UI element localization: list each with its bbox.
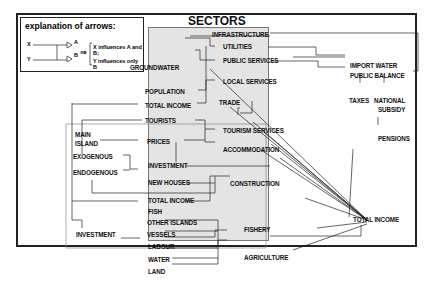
input-vessels: VESSELS (147, 231, 175, 238)
sector-public-services: PUBLIC SERVICES (223, 57, 278, 64)
input-water: WATER (148, 256, 170, 263)
input-tourists: TOURISTS (145, 117, 176, 124)
input-investment: INVESTMENT (148, 162, 188, 169)
output-pensions: PENSIONS (378, 135, 410, 142)
sector-utilities: UTILITIES (223, 43, 252, 50)
sector-local-services: LOCAL SERVICES (223, 78, 277, 85)
sector-infrastructure: INFRASTRUCTURE (212, 31, 269, 38)
sector-fishery: FISHERY (244, 226, 270, 233)
input-new-houses: NEW HOUSES (148, 179, 190, 186)
input-main-island: MAIN (75, 131, 91, 138)
arrow-legend: explanation of arrows: X Y A B X influen… (20, 17, 144, 72)
input-total-income-1: TOTAL INCOME (145, 102, 191, 109)
output-public-balance: PUBLIC BALANCE (350, 72, 405, 79)
output-total-income: TOTAL INCOME (353, 216, 399, 223)
input-labour: LABOUR (148, 243, 174, 250)
sectors-title: SECTORS (188, 14, 246, 28)
sector-agriculture: AGRICULTURE (244, 254, 288, 261)
output-taxes: TAXES (349, 97, 369, 104)
output-subsidy: SUBSIDY (378, 106, 405, 113)
output-import-water: IMPORT WATER (350, 62, 397, 69)
input-exogenous: EXOGENOUS (73, 153, 113, 160)
input-investment-2: INVESTMENT (76, 231, 116, 238)
input-population: POPULATION (145, 88, 185, 95)
output-national: NATIONAL (374, 97, 405, 104)
sector-trade: TRADE (219, 99, 240, 106)
sector-tourism-services: TOURISM SERVICES (223, 127, 284, 134)
input-groundwater: GROUNDWATER (130, 64, 179, 71)
sector-accommodation: ACCOMMODATION (223, 146, 279, 153)
input-fish: FISH (148, 208, 162, 215)
svg-text:⇒: ⇒ (80, 48, 87, 57)
input-prices: PRICES (147, 138, 170, 145)
sector-construction: CONSTRUCTION (230, 180, 280, 187)
input-endogenous: ENDOGENOUS (73, 169, 117, 176)
input-total-income-2: TOTAL INCOME (148, 197, 194, 204)
input-other-islands: OTHER ISLANDS (147, 219, 197, 226)
input-main-island-2: ISLAND (75, 140, 98, 147)
input-land: LAND (148, 268, 165, 275)
